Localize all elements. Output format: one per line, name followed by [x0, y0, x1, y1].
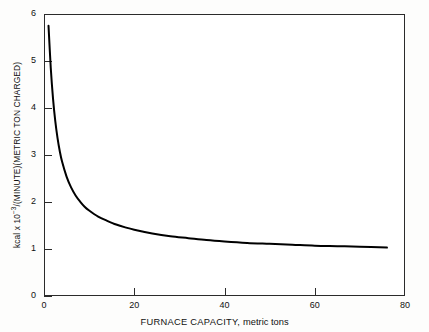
y-tick-label-5: 5: [22, 56, 36, 65]
y-axis-label-exponent: −3: [10, 206, 17, 214]
y-tick-6: [44, 14, 52, 15]
x-axis-label: FURNACE CAPACITY, metric tons: [0, 317, 429, 328]
y-tick-label-2: 2: [22, 197, 36, 206]
x-tick-label-0: 0: [32, 301, 56, 310]
y-tick-3: [44, 155, 52, 156]
x-axis-label-unit: metric tons: [243, 317, 288, 327]
plot-frame: [44, 14, 405, 296]
x-tick-label-60: 60: [303, 301, 327, 310]
y-tick-label-6: 6: [22, 9, 36, 18]
x-tick-label-20: 20: [122, 301, 146, 310]
y-axis-label-prefix: kcal x 10: [12, 214, 22, 248]
y-axis-label: kcal x 10−3/(MINUTE)(METRIC TON CHARGED): [11, 14, 24, 296]
y-tick-label-4: 4: [22, 103, 36, 112]
y-tick-label-0: 0: [22, 291, 36, 300]
x-tick-40: [225, 288, 226, 296]
x-tick-label-40: 40: [213, 301, 237, 310]
x-axis-label-main: FURNACE CAPACITY,: [140, 317, 240, 327]
y-tick-0: [44, 296, 52, 297]
x-tick-label-80: 80: [393, 301, 417, 310]
y-tick-label-3: 3: [22, 150, 36, 159]
y-tick-label-1: 1: [22, 244, 36, 253]
y-tick-2: [44, 202, 52, 203]
y-axis-label-suffix: /(MINUTE)(METRIC TON CHARGED): [12, 62, 22, 207]
y-tick-4: [44, 108, 52, 109]
x-tick-20: [134, 288, 135, 296]
x-tick-60: [315, 288, 316, 296]
y-tick-5: [44, 61, 52, 62]
y-tick-1: [44, 249, 52, 250]
chart-figure: 0123456020406080 kcal x 10−3/(MINUTE)(ME…: [0, 0, 429, 332]
